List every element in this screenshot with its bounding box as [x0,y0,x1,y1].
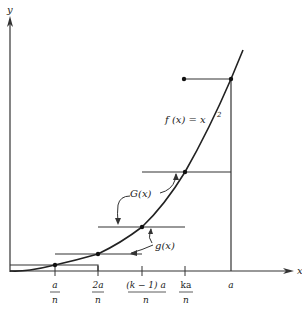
y-axis: y [6,4,13,272]
riemann-step-diagram: y x [0,0,302,309]
G-label-text: G(x) [130,188,152,199]
tick-2a-over-n-num: 2a [91,280,103,290]
tick-a-over-n-num: a [52,280,57,290]
tick-k-1-a-over-n-num: (k − 1) a [126,280,166,290]
g-label-text: g(x) [155,240,175,251]
tick-ka-over-n-num: ka [181,280,192,290]
G-arrow-icon [115,218,121,225]
G-arrow-up-icon [173,173,179,180]
tick-a-over-n-den: n [52,295,58,305]
tick-ka-over-n-den: n [183,295,189,305]
y-axis-label: y [6,4,13,15]
tick-k-1-a-over-n-den: n [143,295,149,305]
curve-f [10,50,243,271]
svg-text:f (x) = x: f (x) = x [164,114,206,125]
tick-labels: a n 2a n (k − 1) a n ka n a [50,280,234,305]
g-arrow-up-icon [148,228,153,234]
tick-a: a [228,280,233,290]
svg-text:2: 2 [216,111,222,119]
tick-2a-over-n-den: n [95,295,101,305]
x-axis-label: x [297,265,302,276]
